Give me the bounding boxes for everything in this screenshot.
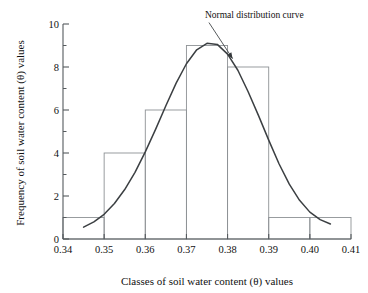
histogram-bar <box>104 153 145 239</box>
y-tick-label: 4 <box>54 148 60 159</box>
x-tick-label: 0.40 <box>301 244 319 255</box>
y-tick-label: 6 <box>54 105 59 116</box>
y-axis-ticks <box>63 24 69 239</box>
normal-curve-path <box>84 43 331 227</box>
histogram-bar <box>186 46 227 240</box>
y-axis-title: Frequency of soil water content (θ) valu… <box>14 40 27 226</box>
chart-axes <box>63 24 351 239</box>
histogram-chart: 0.340.350.360.370.380.390.400.41 0246810… <box>0 0 368 293</box>
x-axis-tick-labels: 0.340.350.360.370.380.390.400.41 <box>54 244 360 255</box>
histogram-bar <box>269 218 310 240</box>
x-tick-label: 0.34 <box>54 244 73 255</box>
normal-distribution-curve <box>84 43 331 227</box>
y-tick-label: 2 <box>54 191 59 202</box>
y-tick-label: 0 <box>54 234 59 245</box>
x-axis-ticks <box>63 234 351 239</box>
x-tick-label: 0.39 <box>260 244 278 255</box>
annotation-leader-line <box>209 23 233 59</box>
x-tick-label: 0.36 <box>136 244 154 255</box>
chart-figure: 0.340.350.360.370.380.390.400.41 0246810… <box>0 0 368 293</box>
x-tick-label: 0.38 <box>218 244 236 255</box>
histogram-bar <box>145 110 186 239</box>
histogram-bar <box>63 218 104 240</box>
annotation-label: Normal distribution curve <box>205 10 304 20</box>
y-axis-tick-labels: 0246810 <box>49 19 60 245</box>
x-tick-label: 0.41 <box>342 244 360 255</box>
x-tick-label: 0.37 <box>177 244 195 255</box>
annotation-group: Normal distribution curve <box>205 10 304 59</box>
histogram-bar <box>310 218 351 240</box>
x-axis-title: Classes of soil water content (θ) values <box>121 275 293 288</box>
y-tick-label: 10 <box>49 19 60 30</box>
x-tick-label: 0.35 <box>95 244 113 255</box>
y-tick-label: 8 <box>54 62 59 73</box>
